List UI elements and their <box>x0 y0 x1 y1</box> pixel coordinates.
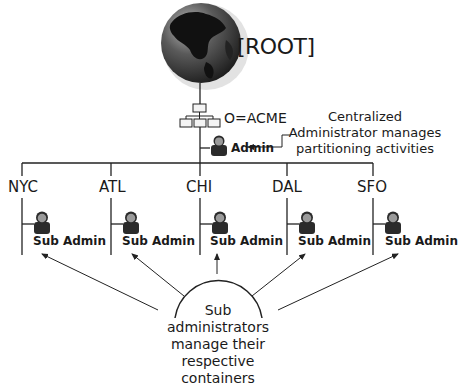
sub-admin-label-atl: Sub Admin <box>122 234 195 248</box>
person-icon-nyc <box>33 210 51 234</box>
sub-admin-label-sfo: Sub Admin <box>385 234 458 248</box>
callout-text: Centralized Administrator manages partit… <box>280 109 450 157</box>
org-label: O=ACME <box>224 110 287 126</box>
sub-admin-label-chi: Sub Admin <box>210 234 283 248</box>
dome-line-2: administrators <box>158 319 278 336</box>
person-icon-atl <box>122 210 140 234</box>
root-label: [ROOT] <box>237 34 315 59</box>
city-label-dal: DAL <box>272 178 302 196</box>
city-label-nyc: NYC <box>8 178 38 196</box>
globe-icon <box>161 3 249 90</box>
callout-line-3: partitioning activities <box>280 141 450 157</box>
dome-text: Sub administrators manage their respecti… <box>158 302 278 386</box>
dome-line-3: manage their <box>158 336 278 353</box>
dome-line-5: containers <box>158 370 278 386</box>
sub-admin-label-nyc: Sub Admin <box>33 234 106 248</box>
person-icon-chi <box>211 210 229 234</box>
city-label-atl: ATL <box>99 178 126 196</box>
org-tree-icon <box>180 104 220 127</box>
sub-admin-label-dal: Sub Admin <box>298 234 371 248</box>
callout-line-2: Administrator manages <box>280 125 450 141</box>
city-label-chi: CHI <box>186 178 212 196</box>
admin-label: Admin <box>231 141 274 155</box>
admin-person-icon <box>210 134 228 156</box>
dome-line-1: Sub <box>158 302 278 319</box>
person-icon-sfo <box>384 210 402 234</box>
callout-line-1: Centralized <box>280 109 450 125</box>
city-label-sfo: SFO <box>357 178 387 196</box>
person-icon-dal <box>298 210 316 234</box>
dome-line-4: respective <box>158 353 278 370</box>
